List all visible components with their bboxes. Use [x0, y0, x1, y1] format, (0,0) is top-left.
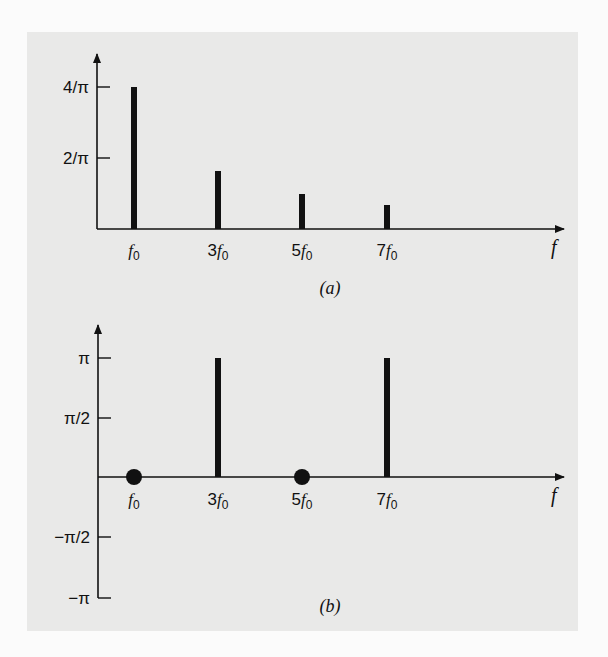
amplitude-bar-7f0 — [384, 205, 390, 229]
amplitude-bar-f0 — [131, 87, 137, 229]
x-tick-label-a-1: 3f0 — [208, 241, 229, 263]
x-tick-label-a-2: 5f0 — [292, 241, 313, 263]
y-tick-label-a-0: 4/π — [63, 78, 89, 97]
x-axis-label-a: f — [551, 236, 559, 259]
phase-bar-7f0 — [384, 358, 390, 477]
x-tick-label-b-1: 3f0 — [208, 490, 229, 512]
y-tick-label-b-3: −π — [68, 589, 90, 608]
phase-dot-f0 — [126, 469, 142, 485]
figure-panel: 4/π 2/π f0 3f0 5f0 7f0 f (a) π π/2 −π/2 — [27, 32, 578, 631]
amplitude-bars — [131, 87, 390, 229]
y-tick-label-a-1: 2/π — [63, 149, 89, 168]
y-tick-label-b-2: −π/2 — [54, 528, 90, 547]
x-tick-label-b-3: 7f0 — [377, 490, 398, 512]
x-tick-label-b-2: 5f0 — [292, 490, 313, 512]
x-tick-label-a-0: f0 — [128, 241, 140, 263]
spectrum-figure: 4/π 2/π f0 3f0 5f0 7f0 f (a) π π/2 −π/2 — [27, 32, 578, 631]
phase-dot-5f0 — [294, 469, 310, 485]
x-axis-label-b: f — [551, 484, 559, 507]
y-tick-label-b-0: π — [78, 349, 90, 368]
phase-spectrum-chart: π π/2 −π/2 −π f0 3f0 5f0 7f0 f (b) — [54, 325, 564, 617]
phase-bar-3f0 — [215, 358, 221, 477]
amplitude-bar-5f0 — [299, 194, 305, 229]
caption-b: (b) — [320, 596, 341, 617]
caption-a: (a) — [320, 278, 341, 299]
amplitude-bar-3f0 — [215, 171, 221, 229]
amplitude-spectrum-chart: 4/π 2/π f0 3f0 5f0 7f0 f (a) — [63, 54, 564, 299]
y-tick-label-b-1: π/2 — [64, 409, 90, 428]
phase-bars — [126, 358, 390, 485]
x-tick-label-a-3: 7f0 — [377, 241, 398, 263]
x-tick-label-b-0: f0 — [128, 490, 140, 512]
